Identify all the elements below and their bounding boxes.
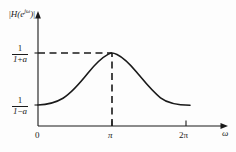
fraction-dc: 1 1−a bbox=[12, 96, 28, 117]
y-tick-label-dc-level: 1 1−a bbox=[12, 96, 28, 117]
y-axis-title-base: H(e bbox=[11, 9, 25, 19]
fraction-peak-numerator: 1 bbox=[12, 44, 28, 53]
y-axis-title-bar-right: | bbox=[33, 9, 35, 19]
x-tick-marks bbox=[112, 121, 186, 127]
fraction-dc-den-right: a bbox=[23, 106, 28, 116]
x-tick-label-pi: π bbox=[108, 131, 113, 140]
y-axis bbox=[35, 11, 41, 126]
x-tick-label-two-pi: 2π bbox=[179, 131, 188, 140]
x-axis bbox=[38, 123, 228, 129]
fraction-peak-den-right: a bbox=[23, 54, 28, 64]
magnitude-response-curve bbox=[38, 53, 190, 105]
x-axis-title: ω bbox=[222, 129, 228, 138]
y-axis-title: |H(ejω)| bbox=[9, 8, 35, 19]
fraction-peak-denominator: 1+a bbox=[12, 55, 28, 64]
fraction-peak: 1 1+a bbox=[12, 44, 28, 65]
y-tick-label-peak-level: 1 1+a bbox=[12, 44, 28, 65]
magnitude-response-figure: |H(ejω)| 1 1+a 1 1−a 0 π 2π ω bbox=[0, 0, 236, 152]
fraction-dc-denominator: 1−a bbox=[12, 107, 28, 116]
x-tick-label-origin: 0 bbox=[35, 131, 40, 140]
fraction-dc-numerator: 1 bbox=[12, 96, 28, 105]
